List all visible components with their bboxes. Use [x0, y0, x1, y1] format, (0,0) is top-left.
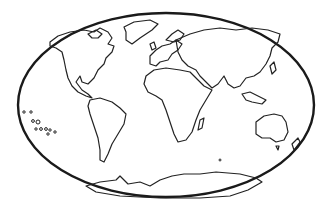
madagascar-outline [198, 118, 204, 130]
british-isles-outline [150, 42, 156, 50]
tasmania-outline [276, 146, 279, 150]
pacific-islands [23, 111, 221, 161]
southeast-asia-islands-outline [242, 92, 266, 104]
world-map [0, 0, 329, 210]
greenland-outline [124, 20, 158, 44]
south-america-outline [88, 98, 126, 162]
new-zealand-outline [292, 138, 300, 150]
australia-outline [256, 114, 288, 142]
africa-outline [144, 68, 212, 142]
japan-outline [270, 62, 276, 74]
north-america-outline [50, 28, 114, 98]
